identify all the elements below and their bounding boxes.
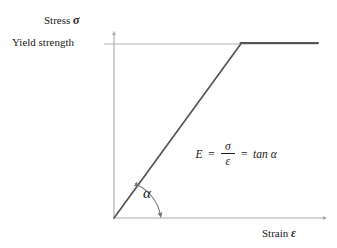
epsilon-symbol: ε <box>291 227 296 239</box>
stress-strain-figure: Stress σ Yield strength Strain ε α E = σ… <box>0 0 337 248</box>
formula-denominator: ε <box>226 154 231 167</box>
formula-equals-first: = <box>205 148 218 160</box>
alpha-angle-label: α <box>143 186 151 201</box>
x-axis-label-text: Strain <box>262 227 291 239</box>
elastic-segment <box>114 43 242 218</box>
x-axis-label: Strain ε <box>262 228 296 240</box>
y-axis-label-text: Stress <box>44 14 73 26</box>
formula-numerator: σ <box>225 140 231 153</box>
formula-rhs: tan α <box>251 148 280 160</box>
y-axis-label: Stress σ <box>44 14 80 26</box>
formula-lhs: E <box>193 148 205 160</box>
sigma-symbol: σ <box>73 13 79 27</box>
modulus-formula: E = σ ε = tan α <box>193 140 279 167</box>
formula-equals-second: = <box>238 148 251 160</box>
yield-strength-label: Yield strength <box>12 37 74 48</box>
formula-fraction: σ ε <box>218 140 238 167</box>
